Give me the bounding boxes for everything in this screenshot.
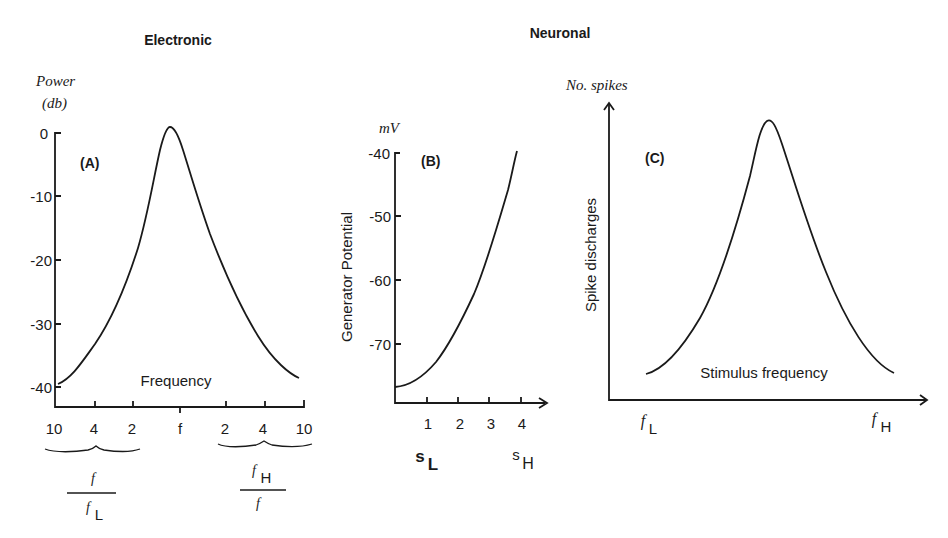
panel-b-ytick: -40 (368, 145, 390, 162)
panel-b-ytick: -60 (369, 272, 391, 289)
panel-a-right-brace (218, 441, 312, 447)
panel-b-s-low-sub: L (428, 455, 438, 474)
panel-b-s-high: s (512, 446, 520, 463)
panel-b-ylabel: Generator Potential (338, 212, 355, 342)
panel-a-ylabel-db: (db) (42, 95, 67, 112)
panel-c-label: (C) (645, 150, 664, 166)
panel-a: Power (db) (A) 0 -10 -20 -30 -40 10 4 2 … (30, 73, 312, 523)
panel-a-xtick: 4 (90, 420, 98, 437)
panel-b-xtick: 4 (518, 415, 526, 432)
panel-a-xtick: 2 (128, 420, 136, 437)
panel-a-label: (A) (80, 155, 99, 171)
panel-a-ytick: -40 (30, 379, 52, 396)
panel-a-axes (55, 133, 304, 407)
panel-a-left-brace (45, 446, 140, 452)
panel-a-curve-label: Frequency (141, 372, 212, 389)
panel-c-f-low-sub: L (649, 420, 657, 437)
panel-b-ytick: -70 (369, 336, 391, 353)
panel-c-axes (609, 104, 926, 400)
panel-b-s-high-sub: H (522, 455, 534, 472)
panel-c-unit: No. spikes (565, 77, 628, 93)
panel-a-ratio-left-den-sub: L (95, 506, 103, 523)
panel-a-ytick: 0 (40, 125, 48, 142)
panel-b-xtick: 1 (424, 415, 432, 432)
panel-c-ylabel: Spike discharges (582, 198, 599, 312)
panel-c-f-high-sub: H (881, 418, 892, 435)
panel-a-xtick: f (178, 420, 183, 437)
panel-b-axes (395, 153, 545, 403)
panel-c-curve-label: Stimulus frequency (700, 364, 828, 381)
panel-b-ytick: -50 (369, 208, 391, 225)
panel-b-unit: mV (379, 120, 401, 136)
panel-a-ratio-left-den: f (86, 500, 92, 515)
panel-a-xtick: 2 (221, 420, 229, 437)
panel-b-xtick: 2 (456, 415, 464, 432)
panel-a-ratio-left-num: f (91, 471, 97, 486)
panel-a-ratio-right-den: f (256, 496, 262, 511)
panel-a-ytick: -20 (30, 252, 52, 269)
panel-b: mV (B) Generator Potential -40 -50 -60 -… (338, 120, 547, 474)
panel-a-xtick: 10 (46, 420, 63, 437)
panel-a-xtick: 10 (296, 420, 313, 437)
panel-a-ratio-right-num-sub: H (261, 469, 272, 486)
panel-b-s-low: s (415, 447, 424, 466)
heading-neuronal: Neuronal (530, 25, 591, 41)
panel-a-ytick: -10 (30, 188, 52, 205)
panel-a-ytick: -30 (30, 316, 52, 333)
panel-b-label: (B) (421, 153, 440, 169)
panel-b-xtick: 3 (487, 415, 495, 432)
figure: Electronic Neuronal Power (db) (A) 0 -10… (0, 0, 948, 538)
panel-c-f-low: f (641, 412, 648, 430)
heading-electronic: Electronic (144, 32, 212, 48)
panel-b-curve (395, 151, 517, 387)
panel-a-ratio-right-num: f (252, 463, 258, 478)
panel-a-ylabel-power: Power (35, 73, 75, 89)
panel-c-f-high: f (872, 410, 879, 428)
panel-c: No. spikes (C) Spike discharges Stimulus… (565, 77, 927, 437)
panel-c-curve (646, 120, 894, 374)
panel-a-xtick: 4 (259, 420, 267, 437)
